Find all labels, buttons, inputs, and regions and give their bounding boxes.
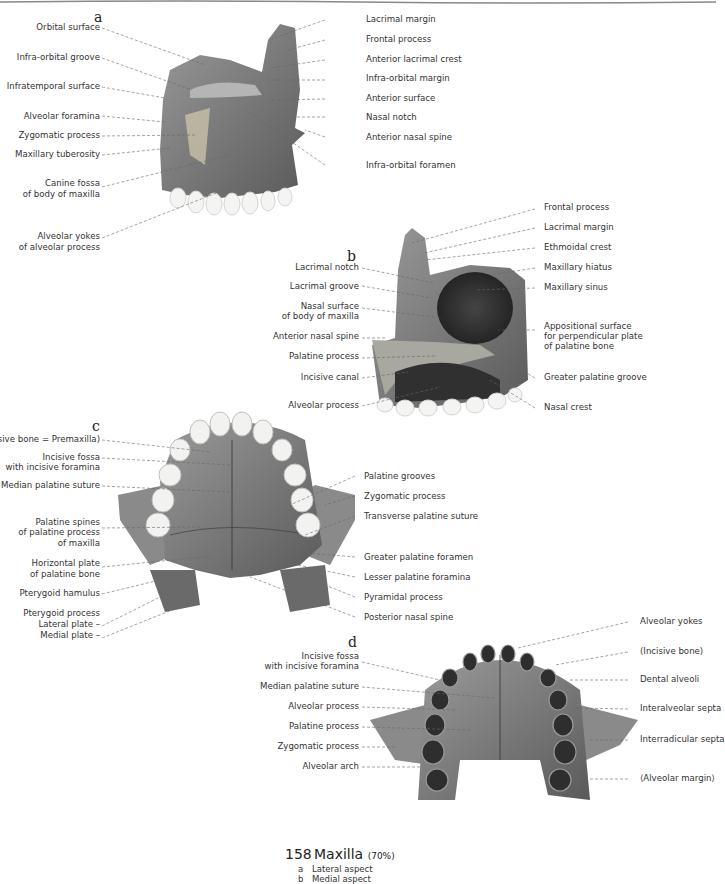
label-anterior-lacrimal-crest: Anterior lacrimal crest bbox=[366, 54, 462, 65]
label-orbital-surface: Orbital surface bbox=[36, 22, 100, 33]
label-dental-alveoli: Dental alveoli bbox=[640, 674, 699, 685]
figure-b-medial-maxilla bbox=[372, 228, 528, 416]
label-nasal-crest: Nasal crest bbox=[544, 402, 592, 413]
label-palatine-grooves: Palatine grooves bbox=[364, 471, 435, 482]
label-lateral-plate: Lateral plate – bbox=[39, 619, 100, 630]
label-incisive-fossa-c-2: with incisive foramina bbox=[6, 462, 100, 473]
label-greater-palatine-groove: Greater palatine groove bbox=[544, 372, 647, 383]
label-infra-orbital-groove: Infra-orbital groove bbox=[17, 52, 100, 63]
label-palatine-process-d: Palatine process bbox=[289, 721, 359, 732]
label-zygomatic-process-c: Zygomatic process bbox=[364, 491, 446, 502]
subcaption-a-letter: a bbox=[298, 864, 303, 874]
label-alveolar-process-d: Alveolar process bbox=[288, 701, 359, 712]
label-pyramidal-process: Pyramidal process bbox=[364, 592, 443, 603]
label-pterygoid-process: Pterygoid process bbox=[23, 608, 100, 619]
label-incisive-fossa-d-2: with incisive foramina bbox=[265, 661, 359, 672]
label-greater-palatine-foramen: Greater palatine foramen bbox=[364, 552, 473, 563]
label-median-palatine-suture-d: Median palatine suture bbox=[260, 681, 359, 692]
subcaption-b-text: Medial aspect bbox=[312, 874, 371, 884]
label-nasal-notch: Nasal notch bbox=[366, 112, 417, 123]
subcaption-a-text: Lateral aspect bbox=[312, 864, 373, 874]
label-canine-fossa: Canine fossa bbox=[45, 178, 100, 189]
label-palatine-spines-3: of maxilla bbox=[58, 538, 100, 549]
label-infratemporal-surface: Infratemporal surface bbox=[7, 81, 100, 92]
label-infra-orbital-foramen: Infra-orbital foramen bbox=[366, 160, 456, 171]
label-ethmoidal-crest: Ethmoidal crest bbox=[544, 242, 611, 253]
label-lacrimal-notch: Lacrimal notch bbox=[295, 262, 359, 273]
label-maxillary-tuberosity: Maxillary tuberosity bbox=[15, 149, 100, 160]
label-interradicular-septa: Interradicular septa bbox=[640, 734, 725, 745]
label-transverse-palatine-suture: Transverse palatine suture bbox=[364, 511, 478, 522]
label-infra-orbital-margin: Infra-orbital margin bbox=[366, 73, 450, 84]
label-horizontal-plate-2: of palatine bone bbox=[30, 569, 100, 580]
subcaption-b-letter: b bbox=[298, 874, 303, 884]
label-frontal-process-b: Frontal process bbox=[544, 202, 609, 213]
label-alveolar-process-b: Alveolar process bbox=[288, 400, 359, 411]
label-appositional-surface-3: of palatine bone bbox=[544, 341, 614, 352]
label-alveolar-foramina: Alveolar foramina bbox=[24, 111, 100, 122]
label-medial-plate: Medial plate – bbox=[40, 630, 100, 641]
label-interalveolar-septa: Interalveolar septa bbox=[640, 703, 721, 714]
label-lacrimal-margin-b: Lacrimal margin bbox=[544, 222, 614, 233]
figure-a-lateral-maxilla bbox=[160, 24, 305, 215]
label-anterior-nasal-spine-b: Anterior nasal spine bbox=[273, 331, 359, 342]
label-incisive-bone: (Incisive bone) bbox=[640, 646, 703, 657]
panel-d-letter: d bbox=[348, 634, 357, 650]
label-palatine-spines-2: of palatine process bbox=[18, 527, 100, 538]
label-anterior-nasal-spine: Anterior nasal spine bbox=[366, 132, 452, 143]
panel-c-letter: c bbox=[92, 418, 100, 434]
label-lacrimal-groove: Lacrimal groove bbox=[290, 281, 359, 292]
figure-title-text: Maxilla bbox=[314, 846, 363, 862]
label-alveolar-yokes: Alveolar yokes bbox=[37, 231, 100, 242]
label-alveolar-arch: Alveolar arch bbox=[302, 761, 359, 772]
label-maxillary-hiatus: Maxillary hiatus bbox=[544, 262, 612, 273]
label-median-palatine-suture-c: Median palatine suture bbox=[1, 480, 100, 491]
label-lacrimal-margin: Lacrimal margin bbox=[366, 14, 436, 25]
label-anterior-surface: Anterior surface bbox=[366, 93, 435, 104]
figure-number: 158 bbox=[285, 846, 312, 862]
label-pterygoid-hamulus: Pterygoid hamulus bbox=[19, 588, 100, 599]
figure-c-inferior-maxilla bbox=[118, 412, 355, 612]
label-horizontal-plate: Horizontal plate bbox=[32, 558, 100, 569]
label-zygomatic-process-d: Zygomatic process bbox=[277, 741, 359, 752]
label-alveolar-yokes-2: of alveolar process bbox=[19, 242, 100, 253]
figure-d-superior-maxilla bbox=[370, 645, 638, 800]
figure-scale: (70%) bbox=[368, 851, 395, 861]
figure-title: Maxilla (70%) bbox=[314, 846, 395, 862]
label-incisive-canal: Incisive canal bbox=[301, 372, 359, 383]
label-lesser-palatine-foramina: Lesser palatine foramina bbox=[364, 572, 471, 583]
label-alveolar-margin: ⟨Alveolar margin⟩ bbox=[640, 773, 715, 784]
label-frontal-process: Frontal process bbox=[366, 34, 431, 45]
label-palatine-process: Palatine process bbox=[289, 351, 359, 362]
label-incisive-bone-premaxilla: (Incisive bone = Premaxilla) bbox=[0, 434, 100, 445]
label-canine-fossa-2: of body of maxilla bbox=[23, 189, 100, 200]
label-nasal-surface-2: of body of maxilla bbox=[282, 311, 359, 322]
label-maxillary-sinus: Maxillary sinus bbox=[544, 282, 608, 293]
label-alveolar-yokes-d: Alveolar yokes bbox=[640, 616, 703, 627]
label-zygomatic-process: Zygomatic process bbox=[18, 130, 100, 141]
label-posterior-nasal-spine: Posterior nasal spine bbox=[364, 612, 453, 623]
